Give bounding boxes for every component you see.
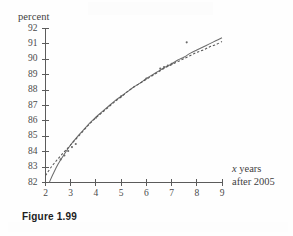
y-tick-label-87: 87	[24, 101, 38, 111]
figure-caption: Figure 1.99	[22, 211, 77, 222]
chart-plot-area	[0, 0, 293, 236]
y-tick-label-83: 83	[24, 162, 38, 172]
x-tick-label-7: 7	[166, 189, 178, 199]
y-tick-label-90: 90	[24, 54, 38, 64]
figure-container: percent x years after 2005 8283848586878…	[0, 0, 293, 236]
y-tick-label-89: 89	[24, 70, 38, 80]
y-tick-label-92: 92	[24, 24, 38, 34]
x-tick-label-4: 4	[90, 189, 102, 199]
data-point-4	[75, 143, 77, 145]
data-point-9	[163, 66, 165, 68]
data-point-0	[60, 158, 62, 160]
y-tick-label-85: 85	[24, 131, 38, 141]
y-axis-title: percent	[18, 11, 50, 22]
y-tick-label-91: 91	[24, 39, 38, 49]
chart-scatter-group	[60, 41, 188, 160]
data-point-10	[167, 64, 169, 66]
y-tick-label-86: 86	[24, 116, 38, 126]
x-axis-title: x years after 2005	[232, 162, 275, 188]
x-tick-label-5: 5	[115, 189, 127, 199]
chart-series-group	[46, 38, 223, 183]
x-tick-label-8: 8	[191, 189, 203, 199]
x-axis-title-subline: after 2005	[232, 175, 275, 188]
x-tick-label-6: 6	[140, 189, 152, 199]
data-point-6	[120, 95, 122, 97]
data-point-7	[145, 78, 147, 80]
y-tick-label-88: 88	[24, 85, 38, 95]
model-curve-solid	[49, 38, 222, 183]
data-point-2	[67, 150, 69, 152]
data-point-1	[63, 155, 65, 157]
y-tick-label-84: 84	[24, 147, 38, 157]
x-tick-label-2: 2	[40, 189, 52, 199]
data-point-3	[71, 146, 73, 148]
model-curve-dashed	[46, 42, 223, 176]
data-point-8	[159, 67, 161, 69]
x-axis-title-years: years	[237, 163, 262, 174]
data-point-12	[186, 41, 188, 43]
data-point-11	[171, 63, 173, 65]
data-point-5	[95, 117, 97, 119]
x-tick-label-3: 3	[65, 189, 77, 199]
x-tick-label-9: 9	[216, 189, 228, 199]
y-tick-label-82: 82	[24, 178, 38, 188]
